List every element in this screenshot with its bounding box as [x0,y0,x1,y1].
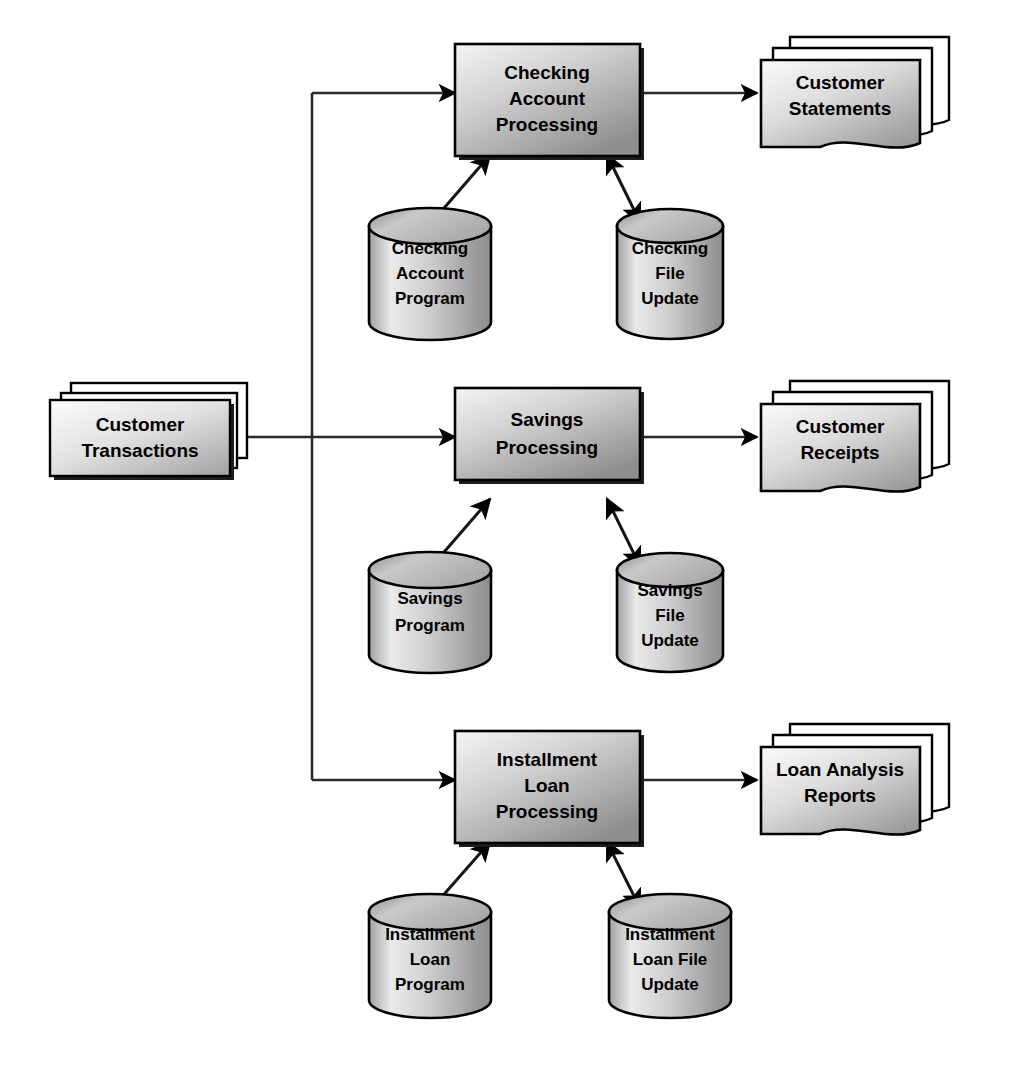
node-installment-loan-program-store[interactable]: Installment Loan Program [369,894,491,1018]
savings-file-label-line-3: Update [641,631,699,650]
node-checking-account-processing[interactable]: Checking Account Processing [455,44,644,160]
checking-process-label-line-1: Checking [504,62,590,83]
savings-program-label-line-1: Savings [397,589,462,608]
customer-transactions-label-line-2: Transactions [81,440,198,461]
node-checking-account-program-store[interactable]: Checking Account Program [369,208,491,340]
node-checking-file-update-store[interactable]: Checking File Update [617,209,723,339]
checking-process-label-line-2: Account [509,88,586,109]
loan-program-label-line-2: Loan [410,950,451,969]
node-savings-file-update-store[interactable]: Savings File Update [617,553,723,672]
savings-program-label-line-2: Program [395,616,465,635]
loan-program-label-line-3: Program [395,975,465,994]
customer-statements-label-line-1: Customer [796,72,885,93]
savings-process-label-line-1: Savings [511,409,584,430]
node-installment-loan-processing[interactable]: Installment Loan Processing [455,731,644,847]
loan-file-label-line-2: Loan File [633,950,708,969]
loan-file-label-line-3: Update [641,975,699,994]
checking-file-label-line-3: Update [641,289,699,308]
checking-file-label-line-2: File [655,264,684,283]
node-installment-loan-file-update-store[interactable]: Installment Loan File Update [609,894,731,1018]
loan-file-label-line-1: Installment [625,925,715,944]
node-loan-analysis-reports-document[interactable]: Loan Analysis Reports [761,724,949,835]
loan-process-label-line-3: Processing [496,801,598,822]
customer-transactions-label-line-1: Customer [96,414,185,435]
node-savings-program-store[interactable]: Savings Program [369,552,491,673]
checking-program-label-line-2: Account [396,264,464,283]
savings-process-label-line-2: Processing [496,437,598,458]
loan-program-label-line-1: Installment [385,925,475,944]
node-savings-processing[interactable]: Savings Processing [455,388,644,484]
checking-file-label-line-1: Checking [632,239,709,258]
loan-process-label-line-1: Installment [497,749,598,770]
node-customer-receipts-document[interactable]: Customer Receipts [761,381,949,492]
savings-file-label-line-1: Savings [637,581,702,600]
loan-analysis-reports-label-line-2: Reports [804,785,876,806]
loan-process-label-line-2: Loan [524,775,569,796]
checking-process-label-line-3: Processing [496,114,598,135]
system-flowchart-diagram: Customer Transactions Checking Account P… [0,0,1020,1075]
checking-program-label-line-3: Program [395,289,465,308]
node-customer-transactions[interactable]: Customer Transactions [50,383,247,480]
diagram-canvas: Customer Transactions Checking Account P… [0,0,1020,1075]
customer-statements-label-line-2: Statements [789,98,891,119]
customer-receipts-label-line-1: Customer [796,416,885,437]
savings-file-label-line-2: File [655,606,684,625]
checking-program-label-line-1: Checking [392,239,469,258]
customer-receipts-label-line-2: Receipts [800,442,879,463]
node-customer-statements-document[interactable]: Customer Statements [761,37,949,148]
loan-analysis-reports-label-line-1: Loan Analysis [776,759,904,780]
